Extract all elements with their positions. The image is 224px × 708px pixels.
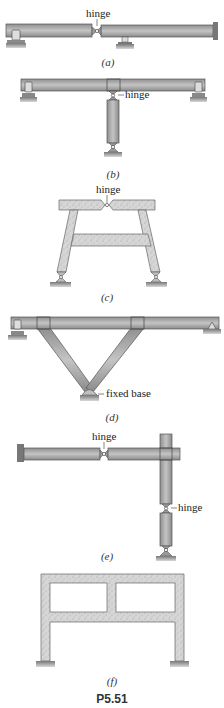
fixed-base-label: fixed base xyxy=(106,387,151,399)
beam-d xyxy=(11,317,219,329)
hinge-label-c: hinge xyxy=(96,183,121,195)
hinge-label-e-top: hinge xyxy=(92,430,117,442)
figure-id: P5.51 xyxy=(96,692,128,706)
beam-b xyxy=(21,79,205,91)
structures-figure: hinge (a) xyxy=(0,0,224,708)
column-b xyxy=(107,100,119,143)
caption-d: (d) xyxy=(106,411,119,424)
beam-right-a xyxy=(101,25,213,37)
caption-f: (f) xyxy=(107,675,118,688)
top-beam-left-c xyxy=(59,200,105,210)
pin-base-icon xyxy=(156,546,176,561)
fixed-wall-icon xyxy=(213,22,218,40)
beam-right-e xyxy=(108,448,180,460)
lower-column-e xyxy=(160,513,172,546)
caption-e: (e) xyxy=(101,550,114,563)
left-strut-d xyxy=(37,328,93,392)
roller-support-icon xyxy=(116,37,134,49)
panel-c: hinge (c) xyxy=(50,183,167,304)
caption-a: (a) xyxy=(102,56,115,69)
caption-b: (b) xyxy=(107,168,120,181)
top-beam-right-c xyxy=(109,200,155,210)
pin-base-right-icon xyxy=(146,272,167,287)
panel-a: hinge (a) xyxy=(6,7,218,69)
panel-b: hinge (b) xyxy=(20,79,207,181)
fixed-wall-icon xyxy=(17,444,24,462)
column-e xyxy=(160,434,172,504)
pin-base-icon xyxy=(104,143,122,157)
hinge-icon xyxy=(162,504,170,513)
fixed-base-left-icon xyxy=(36,661,55,667)
crossbeam-c xyxy=(71,234,151,246)
panel-e: hinge hinge (e) xyxy=(17,430,203,563)
panel-f: (f) xyxy=(36,574,189,688)
pin-base-left-icon xyxy=(50,272,71,287)
beam-left-e xyxy=(24,448,100,460)
hinge-label-b: hinge xyxy=(125,88,150,100)
hinge-label-a: hinge xyxy=(86,7,111,19)
caption-c: (c) xyxy=(101,291,114,304)
hinge-label-e-column: hinge xyxy=(178,501,203,513)
hinge-icon xyxy=(92,27,101,35)
fixed-base-right-icon xyxy=(170,661,189,667)
hinge-icon xyxy=(100,450,108,458)
hinge-icon xyxy=(105,203,108,206)
right-strut-d xyxy=(86,328,144,392)
panel-d: fixed base (d) xyxy=(8,317,221,424)
frame-f xyxy=(41,574,184,661)
fixed-base-icon xyxy=(80,390,99,402)
hinge-icon xyxy=(109,91,117,100)
